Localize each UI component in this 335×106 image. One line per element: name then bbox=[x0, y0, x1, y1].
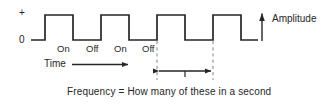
square-wave-trace bbox=[31, 15, 258, 40]
amplitude-zero-label: 0 bbox=[19, 35, 25, 45]
amplitude-axis-label: Amplitude bbox=[272, 14, 316, 24]
frequency-diagram: + 0 On Off On Off Time Amplitude Frequen… bbox=[0, 0, 335, 106]
state-label-on-1: On bbox=[57, 44, 70, 54]
amplitude-high-label: + bbox=[19, 8, 25, 18]
time-axis-label: Time bbox=[44, 59, 66, 69]
state-label-on-2: On bbox=[114, 44, 127, 54]
frequency-caption: Frequency = How many of these in a secon… bbox=[67, 87, 271, 97]
state-label-off-1: Off bbox=[86, 44, 99, 54]
state-label-off-2: Off bbox=[142, 44, 155, 54]
